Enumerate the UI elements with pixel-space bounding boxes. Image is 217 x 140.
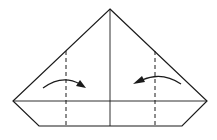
right-arrowhead-icon xyxy=(133,76,145,84)
origami-diagram xyxy=(0,0,217,140)
right-fold-arrow xyxy=(142,76,181,84)
left-fold-arrow xyxy=(43,80,80,88)
left-arrowhead-icon xyxy=(76,80,86,88)
